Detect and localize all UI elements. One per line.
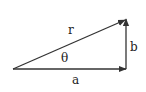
label-a: a [72,73,79,87]
label-r: r [68,23,74,37]
label-b: b [130,40,138,54]
diagram-canvas: r θ b a [0,0,146,92]
label-theta: θ [61,51,68,65]
vector-triangle-diagram: r θ b a [0,0,146,92]
